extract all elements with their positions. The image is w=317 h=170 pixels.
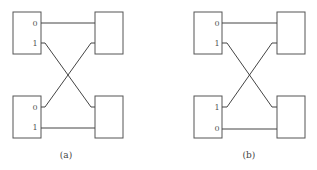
port-label: 0 xyxy=(214,19,219,28)
top-right-switch xyxy=(277,12,305,54)
cross-wire xyxy=(222,43,277,107)
port-label: 1 xyxy=(214,103,219,112)
bottom-right-switch xyxy=(95,96,123,138)
panel-a: 0 1 0 1 (a) xyxy=(13,12,123,160)
port-label: 0 xyxy=(32,19,37,28)
panel-caption: (a) xyxy=(60,150,72,160)
port-label: 0 xyxy=(214,124,219,133)
cross-wire xyxy=(41,43,95,107)
panel-caption: (b) xyxy=(243,150,256,160)
port-label: 1 xyxy=(214,39,219,48)
port-label: 0 xyxy=(32,103,37,112)
switch-diagram: 0 1 0 1 (a) 0 1 1 0 (b) xyxy=(0,0,317,170)
bottom-right-switch xyxy=(277,96,305,138)
port-label: 1 xyxy=(32,123,37,132)
panel-b: 0 1 1 0 (b) xyxy=(194,12,305,160)
port-label: 1 xyxy=(32,39,37,48)
top-right-switch xyxy=(95,12,123,54)
